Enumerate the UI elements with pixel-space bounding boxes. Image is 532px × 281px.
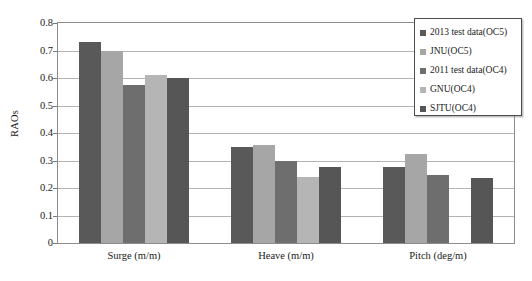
y-axis-tick-label: 0.3 [11, 155, 53, 166]
bar [427, 175, 449, 243]
legend-item[interactable]: GNU(OC4) [420, 81, 521, 99]
legend-item[interactable]: 2013 test data(OC5) [420, 24, 521, 42]
y-axis-tick-label: 0.4 [11, 128, 53, 139]
bar [167, 78, 189, 243]
bar [253, 145, 275, 243]
legend-item[interactable]: JNU(OC5) [420, 43, 521, 61]
y-axis-tick-label: 0.5 [11, 100, 53, 111]
x-axis-label: Pitch (deg/m) [362, 250, 514, 261]
legend: 2013 test data(OC5)JNU(OC5)2011 test dat… [414, 18, 522, 116]
bar [101, 51, 123, 244]
legend-swatch-icon [420, 49, 426, 55]
bar [231, 147, 253, 243]
legend-label: 2013 test data(OC5) [430, 28, 507, 38]
x-axis-label: Surge (m/m) [58, 250, 210, 261]
bar [383, 167, 405, 243]
bar [79, 42, 101, 243]
legend-label: GNU(OC4) [430, 85, 475, 95]
y-axis-tick-label: 0.8 [11, 18, 53, 29]
legend-swatch-icon [420, 106, 426, 112]
y-axis-tick-label: 0.2 [11, 183, 53, 194]
legend-item[interactable]: SJTU(OC4) [420, 100, 521, 118]
x-axis-label: Heave (m/m) [210, 250, 362, 261]
legend-label: JNU(OC5) [430, 47, 472, 57]
bar [275, 161, 297, 244]
legend-label: SJTU(OC4) [430, 104, 476, 114]
legend-label: 2011 test data(OC4) [430, 66, 507, 76]
legend-item[interactable]: 2011 test data(OC4) [420, 62, 521, 80]
y-axis-tick-label: 0.1 [11, 210, 53, 221]
y-axis-tick-label: 0 [11, 238, 53, 249]
bar [471, 178, 493, 243]
bar-chart: RAOs 0.80.70.60.50.40.30.20.10 Surge (m/… [0, 0, 532, 281]
y-axis-tick-label: 0.7 [11, 45, 53, 56]
y-axis-tick-labels: 0.80.70.60.50.40.30.20.10 [5, 22, 53, 244]
bar [123, 85, 145, 243]
bar [405, 154, 427, 243]
bar [319, 167, 341, 243]
legend-swatch-icon [420, 68, 426, 74]
legend-swatch-icon [420, 87, 426, 93]
y-axis-tick-label: 0.6 [11, 73, 53, 84]
bar [297, 177, 319, 243]
bar [145, 75, 167, 243]
legend-swatch-icon [420, 30, 426, 36]
